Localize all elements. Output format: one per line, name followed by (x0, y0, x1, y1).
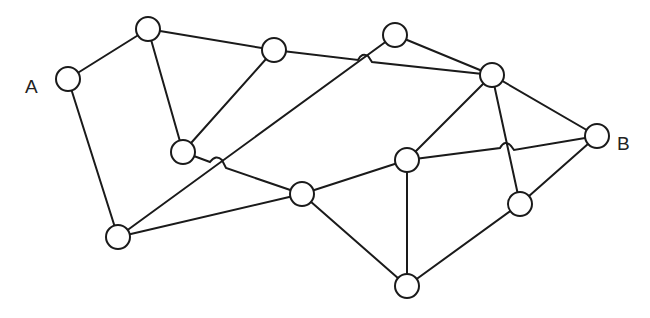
node-n1 (136, 17, 160, 41)
edge-n2-n5 (183, 50, 274, 152)
node-n4 (480, 63, 504, 87)
edge-n7-n8 (302, 160, 407, 194)
node-b (585, 124, 609, 148)
edges (68, 29, 597, 286)
edge-n6-n7 (118, 194, 302, 237)
edge-n4-b (492, 75, 597, 136)
node-n6 (106, 225, 130, 249)
edge-n4-n8 (407, 75, 492, 160)
node-a (56, 67, 80, 91)
edge-n4-n10 (492, 75, 520, 204)
node-n10 (508, 192, 532, 216)
edge-a-n1 (68, 29, 148, 79)
label-start-a: A (25, 76, 38, 97)
edge-a-n6 (68, 79, 118, 237)
edge-n1-n2 (148, 29, 274, 50)
edge-n1-n5 (148, 29, 183, 152)
node-n8 (395, 148, 419, 172)
node-n5 (171, 140, 195, 164)
edge-n5-n7 (183, 152, 302, 194)
edge-n8-b (407, 136, 597, 160)
edge-n3-n6 (118, 35, 395, 237)
edge-n10-n11 (407, 204, 520, 286)
nodes (56, 17, 609, 298)
network-diagram: A B (0, 0, 650, 318)
node-n2 (262, 38, 286, 62)
edge-n7-n11 (302, 194, 407, 286)
node-n11 (395, 274, 419, 298)
label-end-b: B (617, 133, 630, 154)
node-n3 (383, 23, 407, 47)
node-n7 (290, 182, 314, 206)
